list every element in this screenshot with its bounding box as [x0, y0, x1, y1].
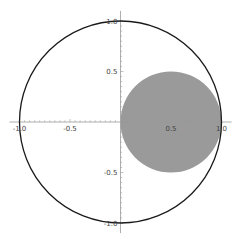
x-tick-label: -0.5 — [63, 125, 77, 133]
y-tick-label: 1.0 — [106, 18, 117, 26]
y-tick-label: -1.0 — [104, 220, 118, 228]
x-tick-label: -1.0 — [13, 125, 27, 133]
axes — [9, 11, 231, 233]
y-tick-label: 0.5 — [106, 68, 117, 76]
y-tick-label: -0.5 — [104, 169, 118, 177]
x-tick-label: 1.0 — [216, 125, 227, 133]
plot-area: -1.0-0.50.51.0-1.0-0.50.51.0 — [0, 0, 245, 239]
x-tick-label: 0.5 — [165, 125, 176, 133]
